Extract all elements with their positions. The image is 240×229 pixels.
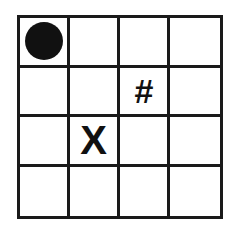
cell-r2-c2[interactable] bbox=[120, 117, 170, 167]
cell-r2-c3[interactable] bbox=[170, 117, 220, 167]
hash-symbol-icon: # bbox=[134, 74, 153, 108]
cell-r1-c1[interactable] bbox=[70, 68, 120, 118]
cell-r3-c2[interactable] bbox=[120, 167, 170, 217]
game-board: # X bbox=[17, 15, 223, 219]
cell-r0-c0[interactable] bbox=[20, 18, 70, 68]
cell-r0-c3[interactable] bbox=[170, 18, 220, 68]
cell-r1-c3[interactable] bbox=[170, 68, 220, 118]
cell-r0-c1[interactable] bbox=[70, 18, 120, 68]
cell-r0-c2[interactable] bbox=[120, 18, 170, 68]
black-circle-icon bbox=[25, 22, 63, 60]
cell-r2-c0[interactable] bbox=[20, 117, 70, 167]
x-mark-icon: X bbox=[80, 120, 107, 160]
cell-r1-c2[interactable]: # bbox=[120, 68, 170, 118]
cell-r1-c0[interactable] bbox=[20, 68, 70, 118]
cell-r3-c3[interactable] bbox=[170, 167, 220, 217]
cell-r3-c1[interactable] bbox=[70, 167, 120, 217]
cell-r3-c0[interactable] bbox=[20, 167, 70, 217]
cell-r2-c1[interactable]: X bbox=[70, 117, 120, 167]
